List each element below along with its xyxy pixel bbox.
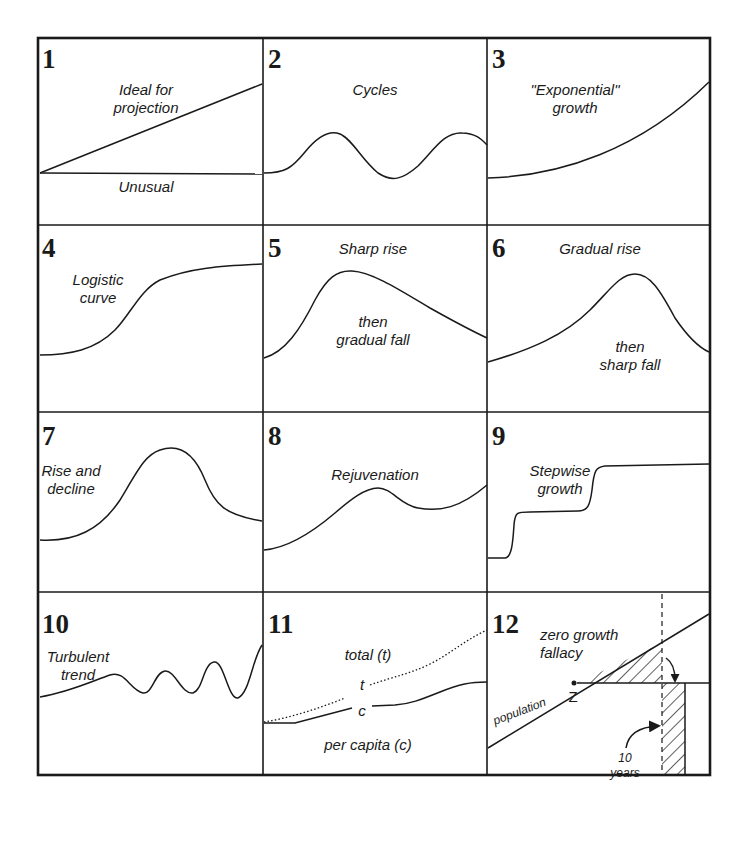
panel-number: 4 <box>42 233 56 263</box>
c-marker-label: c <box>358 702 366 719</box>
ten-years-hatched-bar <box>662 683 685 775</box>
panel-label: Cycles <box>352 81 398 98</box>
panel-9-stepwise: 9 Stepwise growth <box>488 421 709 558</box>
panel-2-cycles: 2 Cycles <box>264 44 487 178</box>
per-capita-label: per capita (c) <box>323 736 412 753</box>
per-capita-curve <box>264 682 487 723</box>
panel-number: 7 <box>42 421 56 451</box>
panel-label: gradual fall <box>336 331 410 348</box>
outer-border <box>38 38 710 775</box>
ten-label: 10 <box>618 751 632 765</box>
panel-label: fallacy <box>540 644 584 661</box>
trend-patterns-figure: 1 Ideal for projection Unusual 2 Cycles … <box>0 0 742 845</box>
z-point <box>572 681 577 686</box>
panel-number: 9 <box>492 421 506 451</box>
panel-12-zero-growth-fallacy: 12 zero growth fallacy population Z 10 y… <box>488 594 709 780</box>
panel-3-exponential: 3 "Exponential" growth <box>488 44 709 178</box>
panel-label: decline <box>47 480 95 497</box>
panel-10-turbulent: 10 Turbulent trend <box>40 609 262 698</box>
panel-5-sharp-rise-gradual-fall: 5 Sharp rise then gradual fall <box>264 233 487 358</box>
panel-number: 5 <box>268 233 282 263</box>
panel-4-logistic: 4 Logistic curve <box>40 233 262 355</box>
panel-number: 3 <box>492 44 506 74</box>
fallacy-hatched-triangle <box>577 643 662 683</box>
panel-7-rise-and-decline: 7 Rise and decline <box>40 421 262 540</box>
panel-label: Stepwise <box>530 462 591 479</box>
total-label: total (t) <box>345 646 392 663</box>
panel-label: Rejuvenation <box>331 466 419 483</box>
panel-label: Ideal for <box>119 81 174 98</box>
panel-label: zero growth <box>539 626 618 643</box>
panel-11-total-vs-per-capita: 11 total (t) t c per capita (c) <box>264 609 487 753</box>
panel-label: Turbulent <box>47 648 110 665</box>
cycle-curve <box>264 133 487 179</box>
population-label: population <box>490 695 548 728</box>
panel-number: 8 <box>268 421 282 451</box>
panel-8-rejuvenation: 8 Rejuvenation <box>264 421 487 550</box>
panel-label: then <box>615 338 644 355</box>
panel-label: growth <box>552 99 597 116</box>
panel-label: "Exponential" <box>530 81 620 98</box>
panel-label: Unusual <box>118 178 174 195</box>
small-arrow <box>666 658 675 680</box>
panel-label: then <box>358 313 387 330</box>
panel-label: Rise and <box>41 462 101 479</box>
panel-label: Sharp rise <box>339 240 407 257</box>
panel-number: 12 <box>492 609 519 639</box>
panel-number: 10 <box>42 609 69 639</box>
panel-grid <box>38 38 710 775</box>
panel-label: sharp fall <box>600 356 662 373</box>
curved-arrow <box>626 726 658 748</box>
rise-fall-curve <box>488 274 709 362</box>
panel-label: growth <box>537 480 582 497</box>
panel-number: 6 <box>492 233 506 263</box>
t-marker-label: t <box>360 676 365 693</box>
panel-label: Gradual rise <box>559 240 641 257</box>
total-dotted-curve <box>264 630 487 722</box>
panel-number: 2 <box>268 44 282 74</box>
rejuvenation-curve <box>264 485 487 550</box>
panel-label: trend <box>61 666 96 683</box>
panel-number: 1 <box>42 44 56 74</box>
panel-label: curve <box>80 289 117 306</box>
flat-line <box>40 173 262 174</box>
panel-6-gradual-rise-sharp-fall: 6 Gradual rise then sharp fall <box>488 233 709 373</box>
panel-number: 11 <box>268 609 294 639</box>
panel-1-linear: 1 Ideal for projection Unusual <box>40 44 262 195</box>
panel-label: projection <box>112 99 178 116</box>
stepwise-curve <box>488 464 709 558</box>
years-label: years <box>609 766 639 780</box>
panel-label: Logistic <box>73 271 124 288</box>
